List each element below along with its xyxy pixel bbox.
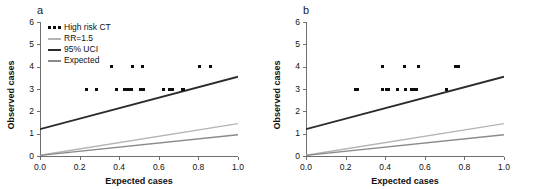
x-tick-b [504, 157, 505, 160]
x-tick-label-a: 0.6 [147, 162, 171, 172]
data-point-a [198, 65, 201, 68]
y-tick-label-b: 4 [286, 61, 300, 71]
y-tick-label-b: 5 [286, 39, 300, 49]
data-point-a [182, 88, 185, 91]
y-axis-label-b: Observed cases [272, 60, 282, 129]
data-point-b [445, 88, 448, 91]
data-point-b [387, 88, 390, 91]
x-tick-b [306, 157, 307, 160]
x-tick-a [198, 157, 199, 160]
y-tick-label-a: 0 [20, 151, 34, 161]
series-line-rr-1-5 [40, 124, 238, 156]
data-point-a [85, 88, 88, 91]
data-point-b [381, 88, 384, 91]
legend-item-label: RR=1.5 [64, 33, 93, 43]
panel-letter-b: b [303, 4, 309, 16]
data-point-a [141, 65, 144, 68]
legend-line-swatch-icon [48, 38, 61, 40]
x-tick-label-b: 0.2 [334, 162, 358, 172]
x-axis-line-a [40, 156, 238, 157]
data-point-a [95, 88, 98, 91]
x-axis-line-b [306, 156, 504, 157]
series-line-expected [306, 135, 504, 156]
x-tick-a [40, 157, 41, 160]
legend-dots-icon [48, 26, 61, 29]
series-line-rr-1-5 [306, 124, 504, 156]
y-tick-label-b: 1 [286, 128, 300, 138]
y-tick-label-b: 0 [286, 151, 300, 161]
panel-letter-a: a [37, 4, 43, 16]
panel-a: a Observed cases 01234560.00.20.40.60.81… [0, 0, 266, 189]
y-tick-label-a: 1 [20, 128, 34, 138]
y-tick-label-a: 3 [20, 84, 34, 94]
figure-two-panel-scatter: a Observed cases 01234560.00.20.40.60.81… [0, 0, 533, 189]
data-point-a [130, 88, 133, 91]
x-tick-a [238, 157, 239, 160]
x-tick-label-b: 0.8 [452, 162, 476, 172]
x-tick-label-b: 0.6 [413, 162, 437, 172]
y-tick-label-b: 3 [286, 84, 300, 94]
data-point-a [209, 65, 212, 68]
x-tick-label-b: 0.0 [294, 162, 318, 172]
x-tick-b [385, 157, 386, 160]
data-point-a [142, 88, 145, 91]
data-point-b [415, 88, 418, 91]
legend-line-swatch-icon [48, 60, 61, 62]
series-line-95-uci [306, 77, 504, 129]
x-tick-b [425, 157, 426, 160]
x-tick-b [346, 157, 347, 160]
y-tick-label-b: 2 [286, 106, 300, 116]
data-point-a [110, 65, 113, 68]
x-tick-a [80, 157, 81, 160]
x-tick-b [464, 157, 465, 160]
data-point-a [162, 88, 165, 91]
x-axis-label-a: Expected cases [99, 176, 179, 186]
legend-item-label: High risk CT [64, 22, 111, 32]
data-point-b [381, 65, 384, 68]
data-point-a [131, 65, 134, 68]
x-tick-a [119, 157, 120, 160]
y-axis-label-a: Observed cases [6, 60, 16, 129]
data-point-b [403, 65, 406, 68]
series-line-95-uci [40, 77, 238, 129]
x-tick-label-a: 1.0 [226, 162, 250, 172]
data-point-b [356, 88, 359, 91]
plot-area-b: 01234560.00.20.40.60.81.0 [306, 22, 504, 156]
data-point-b [457, 65, 460, 68]
x-tick-label-a: 0.4 [107, 162, 131, 172]
x-tick-label-a: 0.2 [68, 162, 92, 172]
data-point-b [417, 65, 420, 68]
x-tick-label-b: 0.4 [373, 162, 397, 172]
x-tick-label-b: 1.0 [492, 162, 516, 172]
y-tick-label-a: 4 [20, 61, 34, 71]
legend-item-label: Expected [64, 55, 99, 65]
data-point-b [404, 88, 407, 91]
x-axis-label-b: Expected cases [365, 176, 445, 186]
y-tick-label-b: 6 [286, 17, 300, 27]
series-line-expected [40, 135, 238, 156]
x-tick-a [159, 157, 160, 160]
y-tick-label-a: 5 [20, 39, 34, 49]
y-tick-label-a: 6 [20, 17, 34, 27]
y-tick-label-a: 2 [20, 106, 34, 116]
panel-b: b Observed cases 01234560.00.20.40.60.81… [266, 0, 532, 189]
x-tick-label-a: 0.8 [186, 162, 210, 172]
legend-item-label: 95% UCI [64, 44, 98, 54]
data-point-b [396, 88, 399, 91]
data-point-a [115, 88, 118, 91]
data-point-a [171, 88, 174, 91]
x-tick-label-a: 0.0 [28, 162, 52, 172]
legend-line-swatch-icon [48, 49, 61, 51]
